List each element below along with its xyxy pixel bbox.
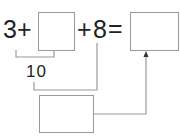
intermediate-to-result-connector bbox=[94, 56, 146, 114]
sum-bracket bbox=[16, 50, 54, 57]
connector-lines bbox=[0, 0, 180, 137]
ten-to-eight-connector bbox=[34, 43, 97, 90]
arrow-up-icon bbox=[144, 51, 149, 57]
